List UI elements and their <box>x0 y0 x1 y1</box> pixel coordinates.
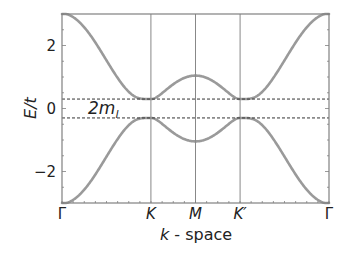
y-tick-label: 2 <box>46 37 56 55</box>
x-tick-labels: ΓKMK′Γ <box>58 205 334 223</box>
band-structure-chart: −202 ΓKMK′Γ E/t k - space 2ml <box>0 0 345 253</box>
gap-annotation: 2ml <box>88 98 118 121</box>
x-tick-label: Γ <box>325 205 334 223</box>
x-tick-label: K′ <box>233 205 247 223</box>
y-tick-label: −2 <box>34 163 56 181</box>
x-axis-label: k - space <box>160 225 232 244</box>
x-tick-label: K <box>146 205 157 223</box>
high-symmetry-gridlines <box>151 14 240 203</box>
x-tick-label: M <box>189 205 202 223</box>
x-tick-label: Γ <box>58 205 67 223</box>
y-axis-label: E/t <box>21 96 40 119</box>
y-tick-label: 0 <box>46 100 56 118</box>
